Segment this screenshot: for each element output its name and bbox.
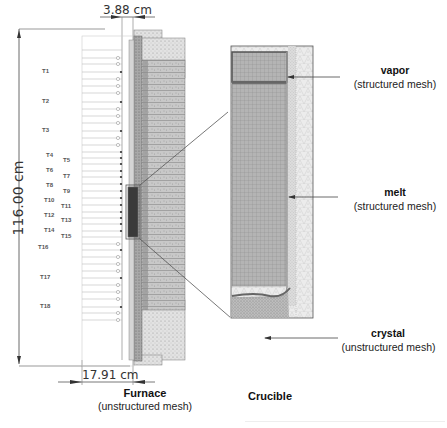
region-mesh-crystal: (unstructured mesh) bbox=[330, 341, 447, 353]
region-mesh-melt: (structured mesh) bbox=[340, 200, 447, 212]
crucible-title: Crucible bbox=[240, 390, 300, 402]
bottom-divider bbox=[245, 421, 445, 422]
region-label-crystal: crystal bbox=[338, 327, 438, 339]
region-label-melt: melt bbox=[345, 186, 445, 198]
region-mesh-vapor: (structured mesh) bbox=[340, 78, 447, 90]
region-label-vapor: vapor bbox=[345, 64, 445, 76]
